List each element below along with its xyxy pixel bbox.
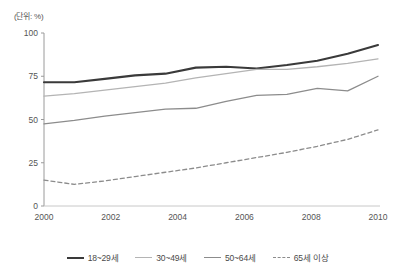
legend-item[interactable]: 30~49세 xyxy=(135,251,187,263)
x-tick-label: 2010 xyxy=(369,212,388,222)
series-line xyxy=(44,59,378,96)
x-tick-label: 2002 xyxy=(101,212,120,222)
y-tick-label: 25 xyxy=(29,158,39,168)
y-tick-label: 75 xyxy=(29,71,39,81)
legend-item[interactable]: 50~64세 xyxy=(204,251,256,263)
legend-label: 30~49세 xyxy=(156,251,187,263)
legend-item[interactable]: 65세 이상 xyxy=(273,251,329,263)
line-chart-svg: 0255075100 200020022004200620082010 xyxy=(0,0,395,232)
y-tick-label: 0 xyxy=(33,201,38,211)
y-axis-ticks: 0255075100 xyxy=(24,28,44,211)
x-axis-ticks: 200020022004200620082010 xyxy=(35,212,388,222)
x-tick-label: 2000 xyxy=(35,212,54,222)
chart-container: (단위: %) 0255075100 200020022004200620082… xyxy=(0,0,395,276)
chart-legend: 18~29세30~49세50~64세65세 이상 xyxy=(0,244,395,270)
series-line xyxy=(44,76,378,124)
legend-label: 50~64세 xyxy=(225,251,256,263)
y-tick-label: 50 xyxy=(29,115,39,125)
legend-item[interactable]: 18~29세 xyxy=(67,251,119,263)
series-line xyxy=(44,45,378,82)
series-lines xyxy=(44,45,378,184)
series-line xyxy=(44,130,378,185)
x-tick-label: 2004 xyxy=(168,212,187,222)
x-tick-label: 2008 xyxy=(302,212,321,222)
plot-area: 0255075100 200020022004200620082010 xyxy=(0,0,395,232)
y-tick-label: 100 xyxy=(24,28,38,38)
legend-label: 65세 이상 xyxy=(294,251,329,263)
legend-label: 18~29세 xyxy=(88,251,119,263)
x-tick-label: 2006 xyxy=(235,212,254,222)
